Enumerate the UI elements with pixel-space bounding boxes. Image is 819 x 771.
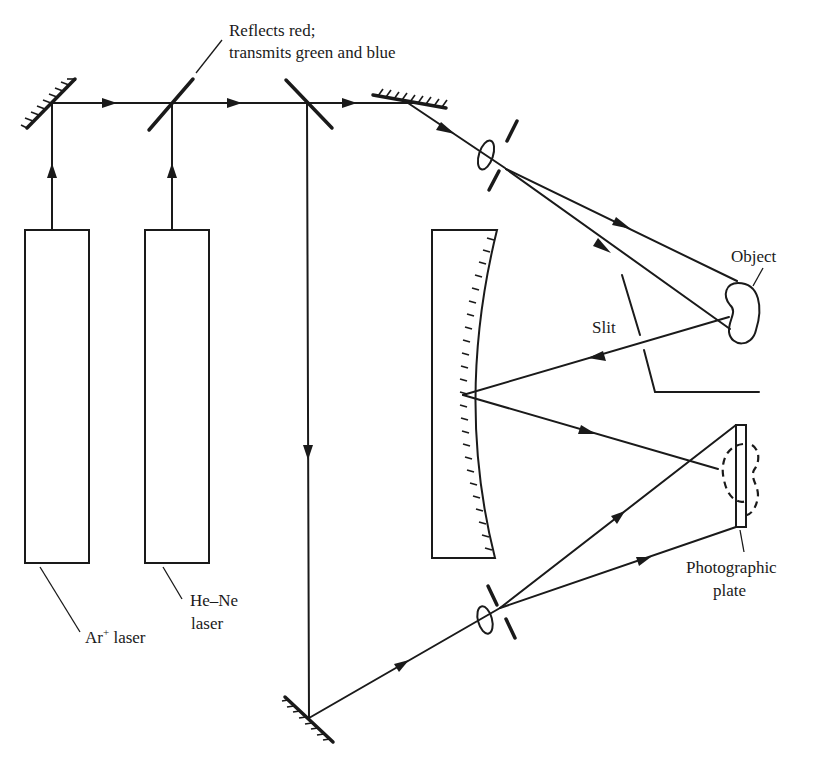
- arrow-icon: [102, 98, 117, 108]
- arrow-icon: [342, 98, 357, 108]
- arrow-icon: [611, 511, 625, 524]
- object-shape: [726, 283, 760, 343]
- reference-beam-lens: [475, 605, 496, 636]
- reference-pinhole-bottom: [506, 619, 515, 638]
- arrow-icon: [593, 238, 611, 253]
- arrow-icon: [303, 445, 313, 460]
- hene-laser-tube: [145, 230, 209, 563]
- photographic-plate: [736, 425, 746, 527]
- hene-laser-label-line1: He–Ne: [190, 591, 238, 610]
- ar-laser-leader-line: [40, 567, 80, 632]
- reference-beam-down: [307, 103, 309, 718]
- arrow-icon: [588, 351, 606, 361]
- slit-label: Slit: [592, 318, 616, 337]
- plate-leader-line: [740, 530, 744, 552]
- hene-laser-label-line2: laser: [191, 614, 223, 633]
- object-beam-pinhole-bottom: [489, 171, 499, 190]
- real-image-outline: [723, 444, 759, 516]
- object-beam-lower: [506, 169, 730, 329]
- slit-upper-blade: [622, 275, 640, 335]
- plate-label-line1: Photographic: [686, 558, 777, 577]
- concave-mirror: [432, 230, 497, 558]
- ar-laser-label: Ar+ laser: [85, 626, 146, 647]
- arrow-icon: [394, 660, 409, 672]
- object-beam-segment: [408, 103, 505, 168]
- ar-laser-tube: [25, 230, 89, 563]
- beamsplitter-leader-line: [196, 40, 222, 73]
- arrow-icon: [612, 217, 631, 229]
- beamsplitter-note-line2: transmits green and blue: [229, 43, 396, 62]
- reference-pinhole-top: [488, 586, 497, 605]
- arrow-icon: [47, 163, 57, 178]
- optical-setup-diagram: Reflects red; transmits green and blue O…: [0, 0, 819, 771]
- plate-label-line2: plate: [713, 581, 746, 600]
- arrow-icon: [636, 557, 651, 566]
- arrow-icon: [578, 425, 596, 434]
- object-label: Object: [731, 247, 777, 266]
- hene-laser-leader-line: [163, 567, 182, 599]
- object-beam-pinhole-top: [507, 121, 517, 141]
- slit-lower-blade: [644, 350, 759, 392]
- beamsplitter-note-line1: Reflects red;: [229, 21, 315, 40]
- object-leader-line: [753, 268, 763, 286]
- arrow-icon: [167, 163, 177, 178]
- arrow-icon: [227, 98, 242, 108]
- bottom-mirror: [282, 697, 333, 742]
